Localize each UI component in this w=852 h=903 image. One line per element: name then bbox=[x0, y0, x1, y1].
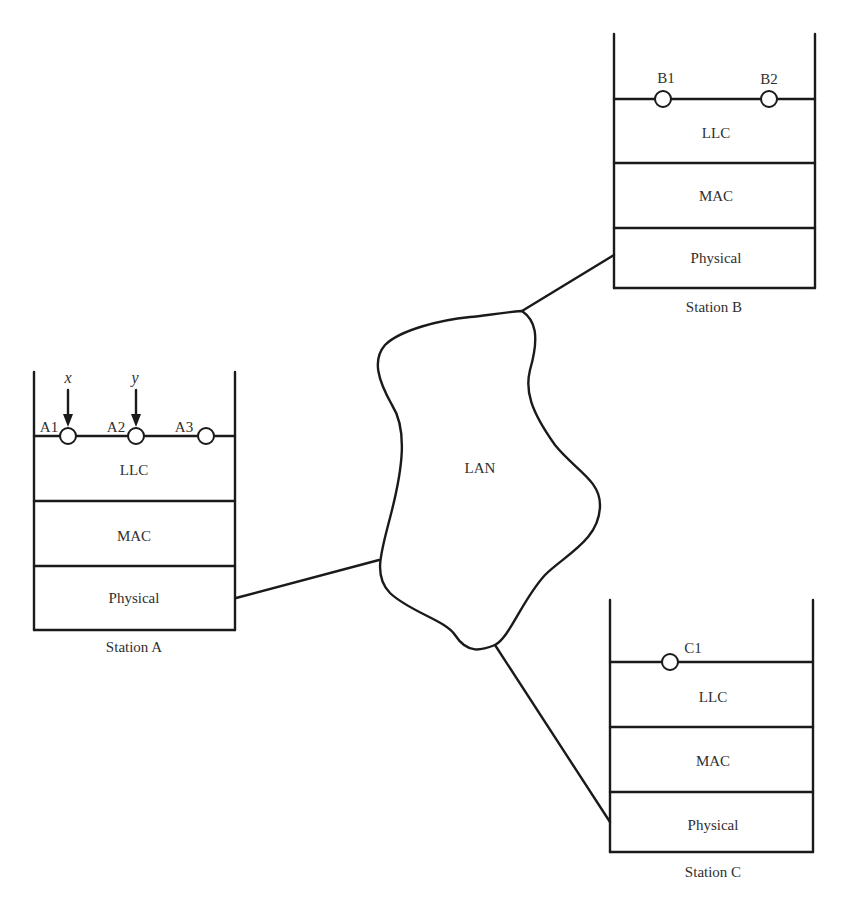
station-c-llc-layer: LLC bbox=[699, 689, 727, 706]
station-c-name: Station C bbox=[685, 864, 741, 881]
arrowheads bbox=[63, 414, 141, 427]
station-c-physical-layer: Physical bbox=[688, 817, 739, 834]
station-c-mac-layer: MAC bbox=[696, 753, 730, 770]
station-a-llc-layer: LLC bbox=[120, 462, 148, 479]
station-c-stack bbox=[610, 600, 813, 852]
lan-cloud bbox=[378, 311, 600, 649]
station-a-mac-layer: MAC bbox=[117, 528, 151, 545]
station-b-name: Station B bbox=[686, 299, 742, 316]
user-y-label: y bbox=[131, 369, 138, 387]
sap-a2-label: A2 bbox=[107, 419, 125, 436]
sap-b2-label: B2 bbox=[760, 71, 778, 88]
lan-label: LAN bbox=[465, 460, 496, 477]
station-a-name: Station A bbox=[106, 639, 162, 656]
sap-b2-icon bbox=[761, 91, 777, 107]
link-station-c-lan bbox=[495, 645, 610, 822]
link-station-b-lan bbox=[522, 255, 614, 311]
station-b-llc-layer: LLC bbox=[702, 125, 730, 142]
station-b-mac-layer: MAC bbox=[699, 188, 733, 205]
sap-c1-icon bbox=[662, 654, 678, 670]
station-a-physical-layer: Physical bbox=[109, 590, 160, 607]
sap-b1-icon bbox=[655, 91, 671, 107]
sap-a3-label: A3 bbox=[175, 419, 193, 436]
user-x-label: x bbox=[64, 369, 71, 387]
sap-b1-label: B1 bbox=[657, 70, 675, 87]
sap-a1-icon bbox=[60, 428, 76, 444]
sap-c1-label: C1 bbox=[684, 640, 702, 657]
sap-a1-label: A1 bbox=[40, 419, 58, 436]
station-a-user-arrows bbox=[68, 390, 136, 418]
sap-a3-icon bbox=[198, 428, 214, 444]
link-station-a-lan bbox=[236, 560, 379, 598]
station-b-physical-layer: Physical bbox=[691, 250, 742, 267]
sap-a2-icon bbox=[128, 428, 144, 444]
